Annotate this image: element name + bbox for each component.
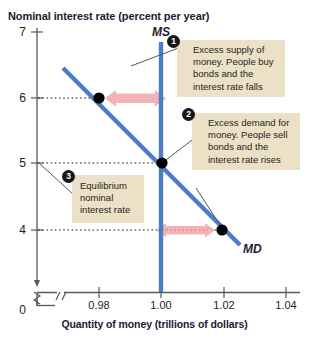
callout-2-badge: 2 — [182, 108, 195, 121]
axis-corner — [37, 293, 57, 306]
y-tick-label-7: 7 — [8, 25, 26, 39]
x-tick-label-104: 1.04 — [266, 299, 306, 311]
y-axis-arrowhead — [34, 280, 40, 287]
callout-3-text: Equilibrium nominal interest rate — [72, 175, 144, 223]
callout-2-leader — [162, 137, 196, 163]
x-tick-label-100: 1.00 — [141, 299, 181, 311]
y-axis-origin-label: 0 — [8, 303, 26, 317]
y-tick-label-6: 6 — [8, 91, 26, 105]
callout-1-text: Excess supply of money. People buy bonds… — [177, 40, 285, 97]
data-point-equilibrium — [156, 157, 167, 168]
y-tick-label-4: 4 — [8, 223, 26, 237]
data-point-excess-supply — [93, 92, 104, 103]
excess-supply-arrow — [105, 90, 166, 107]
x-tick-label-098: 0.98 — [79, 299, 119, 311]
callout-3-badge: 3 — [62, 170, 75, 183]
callout-equilibrium: Equilibrium nominal interest rate — [72, 175, 144, 223]
callout-excess-supply: Excess supply of money. People buy bonds… — [177, 40, 285, 97]
callout-excess-demand: Excess demand for money. People sell bon… — [192, 113, 300, 170]
x-tick-label-102: 1.02 — [204, 299, 244, 311]
excess-demand-arrow — [156, 223, 215, 238]
callout-2-text: Excess demand for money. People sell bon… — [192, 113, 300, 170]
callout-1-badge: 1 — [167, 35, 180, 48]
money-market-chart: Nominal interest rate (percent per year)… — [0, 0, 309, 343]
y-tick-label-5: 5 — [8, 156, 26, 170]
callout-1-leader — [131, 47, 181, 66]
x-axis-break — [56, 292, 66, 300]
data-point-excess-demand — [216, 224, 227, 235]
money-demand-label: MD — [243, 242, 262, 256]
